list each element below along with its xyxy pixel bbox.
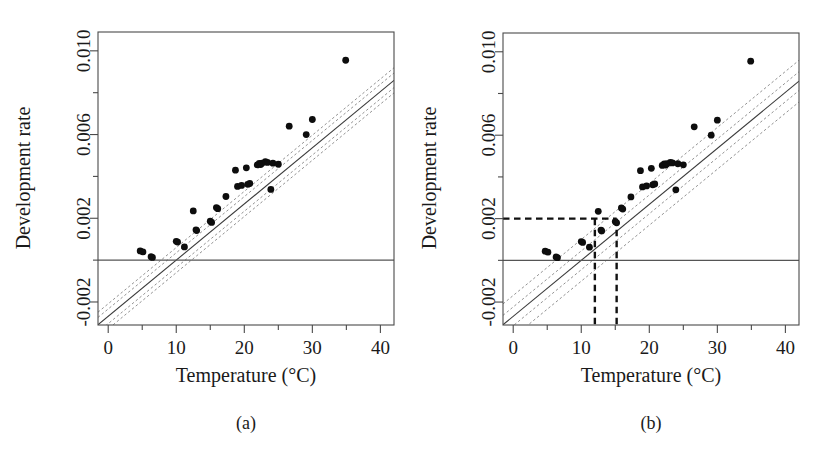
regression-fit-line	[503, 81, 799, 325]
panel-b: 010203040-0.0020.0020.0060.010 Temperatu…	[416, 0, 832, 455]
scatter-plot-a: 010203040-0.0020.0020.0060.010 Temperatu…	[0, 0, 416, 455]
x-tick-label: 30	[303, 337, 322, 358]
x-tick-label: 20	[235, 337, 254, 358]
x-tick-label: 30	[708, 337, 727, 358]
data-point	[149, 254, 156, 261]
y-axis-title-b: Development rate	[418, 107, 441, 250]
data-point	[303, 131, 310, 138]
panel-caption-b: (b)	[641, 413, 662, 434]
y-tick-label: 0.010	[73, 29, 94, 72]
data-point	[238, 182, 245, 189]
data-point	[342, 57, 349, 64]
data-point	[174, 239, 181, 246]
data-point	[246, 180, 253, 187]
panel-a: 010203040-0.0020.0020.0060.010 Temperatu…	[0, 0, 416, 455]
data-point	[190, 208, 197, 215]
y-tick-label: 0.006	[478, 114, 499, 157]
data-point	[214, 205, 221, 212]
data-point	[223, 193, 230, 200]
y-axis-title-a: Development rate	[12, 107, 35, 250]
x-tick-label: 20	[640, 337, 659, 358]
data-point	[595, 208, 602, 215]
plot-a-content: 010203040-0.0020.0020.0060.010	[73, 29, 394, 358]
plot-frame	[98, 32, 394, 325]
plot-b-content: 010203040-0.0020.0020.0060.010	[478, 30, 799, 358]
data-point	[579, 239, 586, 246]
data-point	[643, 182, 650, 189]
data-point	[140, 249, 147, 256]
y-tick-label: -0.002	[73, 277, 94, 326]
x-tick-label: 0	[508, 337, 518, 358]
band-line	[503, 102, 799, 346]
data-point	[309, 116, 316, 123]
data-point	[267, 186, 274, 193]
data-point	[619, 206, 626, 213]
data-point	[598, 228, 605, 235]
band-line	[98, 93, 394, 337]
plot-frame	[503, 33, 799, 325]
band-line	[98, 68, 394, 312]
x-tick-label: 40	[776, 337, 795, 358]
band-line	[503, 91, 799, 335]
y-tick-label: 0.002	[73, 197, 94, 240]
data-point	[275, 161, 282, 168]
y-tick-label: 0.006	[73, 113, 94, 156]
band-line	[98, 73, 394, 317]
x-axis-title-a: Temperature (°C)	[176, 364, 316, 387]
data-point	[691, 123, 698, 130]
figure-container: 010203040-0.0020.0020.0060.010 Temperatu…	[0, 0, 832, 455]
data-point	[680, 161, 687, 168]
band-line	[98, 88, 394, 332]
x-tick-label: 0	[103, 337, 113, 358]
regression-fit-line	[98, 80, 394, 324]
data-point	[628, 194, 635, 201]
y-tick-label: 0.002	[478, 197, 499, 240]
x-tick-label: 10	[572, 337, 591, 358]
data-point	[708, 132, 715, 139]
data-point	[714, 117, 721, 124]
data-point	[193, 227, 200, 234]
panel-caption-a: (a)	[236, 413, 256, 434]
data-point	[545, 249, 552, 256]
data-point	[747, 58, 754, 65]
data-point	[648, 165, 655, 172]
y-tick-label: 0.010	[478, 30, 499, 73]
data-point	[651, 181, 658, 188]
data-point	[243, 164, 250, 171]
data-point	[586, 244, 593, 251]
data-point	[672, 186, 679, 193]
x-tick-label: 10	[167, 337, 186, 358]
x-axis-title-b: Temperature (°C)	[581, 364, 721, 387]
data-point	[554, 254, 561, 261]
band-line	[503, 72, 799, 316]
scatter-plot-b: 010203040-0.0020.0020.0060.010 Temperatu…	[416, 0, 832, 455]
data-point	[286, 123, 293, 130]
data-point	[232, 167, 239, 174]
data-point	[208, 219, 215, 226]
y-tick-label: -0.002	[478, 278, 499, 327]
x-tick-label: 40	[371, 337, 390, 358]
data-point	[181, 244, 188, 251]
data-point	[637, 167, 644, 174]
